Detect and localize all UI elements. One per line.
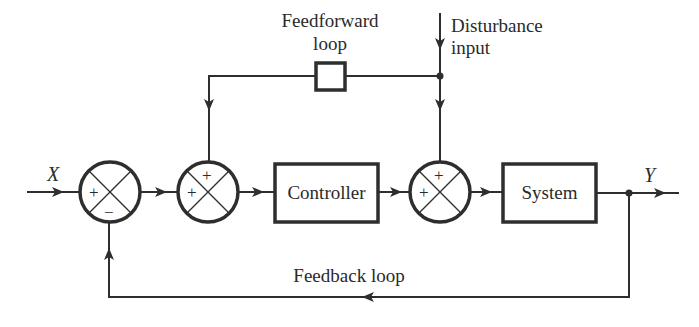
feedforward-line-left	[209, 76, 316, 162]
output-label: Y	[644, 164, 657, 186]
summing-junction-2: + +	[178, 162, 238, 222]
summing-junction-3: + +	[410, 162, 470, 222]
sum1-plus-sign: +	[89, 183, 99, 202]
feedforward-label-line2: loop	[313, 33, 347, 54]
sum3-left-plus-sign: +	[419, 183, 429, 202]
sum3-top-plus-sign: +	[434, 166, 444, 185]
system-label: System	[522, 182, 578, 203]
summing-junction-1: + −	[80, 162, 140, 222]
disturbance-label-line2: input	[451, 37, 491, 58]
feedback-label: Feedback loop	[293, 265, 404, 286]
disturbance-label-line1: Disturbance	[451, 15, 543, 36]
input-label: X	[46, 163, 60, 185]
feedforward-block	[316, 63, 345, 90]
feedforward-label-line1: Feedforward	[281, 10, 379, 31]
sum2-top-plus-sign: +	[202, 166, 212, 185]
sum2-left-plus-sign: +	[187, 183, 197, 202]
sum1-minus-sign: −	[104, 203, 114, 222]
controller-label: Controller	[287, 182, 366, 203]
block-diagram: X + − + + Controller + + System	[0, 0, 699, 327]
